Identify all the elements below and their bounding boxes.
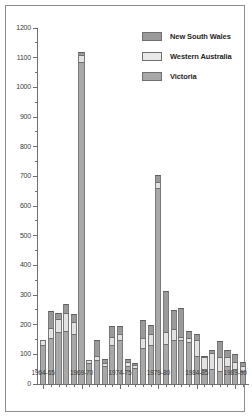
bar-segment-wa: [48, 328, 54, 338]
bar-segment-wa: [86, 360, 92, 363]
bar-segment-vic: [63, 331, 69, 384]
y-tick-label: 700: [20, 171, 31, 180]
bar-segment-wa: [102, 363, 108, 366]
bar: [171, 310, 177, 384]
bar-segment-nsw: [125, 359, 131, 362]
tick-mark: [33, 87, 37, 88]
bar-segment-wa: [217, 357, 223, 370]
bar: [40, 340, 46, 385]
bar-segment-wa: [155, 182, 161, 188]
bar-segment-nsw: [186, 331, 192, 338]
x-tick-major: [82, 385, 83, 389]
tick-mark: [35, 191, 37, 192]
bar-segment-vic: [132, 368, 138, 384]
tick-mark: [35, 250, 37, 251]
x-tick-major: [197, 385, 198, 389]
bar: [94, 340, 100, 385]
x-tick-minor: [59, 385, 60, 387]
y-tick-label: 800: [20, 142, 31, 151]
bar-segment-nsw: [117, 326, 123, 333]
bar-segment-vic: [40, 345, 46, 384]
bar-segment-nsw: [148, 325, 154, 334]
bar-segment-nsw: [240, 362, 246, 366]
bar: [63, 304, 69, 384]
bar: [102, 359, 108, 384]
x-tick-minor: [212, 385, 213, 387]
tick-mark: [33, 324, 37, 325]
bar-segment-wa: [209, 353, 215, 369]
bar-segment-wa: [186, 338, 192, 342]
bar-segment-nsw: [140, 320, 146, 338]
bar: [140, 320, 146, 384]
y-tick-label: 500: [20, 231, 31, 240]
x-tick-minor: [227, 385, 228, 387]
bar-segment-nsw: [78, 52, 84, 55]
y-tick-label: 900: [20, 112, 31, 121]
x-tick-label: 1974-75: [108, 369, 131, 377]
bar: [217, 341, 223, 384]
y-tick-label: 0: [27, 379, 31, 388]
x-tick-minor: [166, 385, 167, 387]
x-tick-minor: [66, 385, 67, 387]
x-tick-minor: [89, 385, 90, 387]
x-tick-major: [43, 385, 44, 389]
plot-area: 0100200300400500600700800900100011001200: [37, 28, 249, 385]
bar-segment-vic: [117, 340, 123, 385]
x-tick-label: 1969-70: [70, 369, 93, 377]
x-tick-minor: [243, 385, 244, 387]
x-tick-minor: [174, 385, 175, 387]
x-tick-major: [235, 385, 236, 389]
bar-segment-wa: [55, 319, 61, 332]
y-tick-label: 400: [20, 260, 31, 269]
bar-segment-wa: [194, 340, 200, 356]
x-tick-minor: [143, 385, 144, 387]
tick-mark: [35, 42, 37, 43]
bar-segment-vic: [109, 345, 115, 384]
bar-segment-vic: [217, 371, 223, 384]
tick-mark: [35, 161, 37, 162]
x-tick-minor: [181, 385, 182, 387]
bar-segment-nsw: [163, 291, 169, 333]
tick-mark: [35, 220, 37, 221]
bar-segment-nsw: [217, 341, 223, 357]
x-tick-major: [158, 385, 159, 389]
bar-segment-vic: [209, 369, 215, 384]
y-axis-line: [37, 28, 38, 385]
bar-segment-vic: [155, 188, 161, 384]
bar-segment-nsw: [132, 363, 138, 364]
tick-mark: [35, 280, 37, 281]
tick-mark: [33, 354, 37, 355]
bar: [224, 350, 230, 384]
bar-segment-vic: [163, 344, 169, 384]
bar-segment-wa: [163, 332, 169, 344]
bar-segment-wa: [171, 329, 177, 339]
bar-segment-vic: [55, 332, 61, 384]
bar-segment-vic: [94, 360, 100, 384]
bar-segment-wa: [71, 322, 77, 334]
x-tick-minor: [135, 385, 136, 387]
bar-segment-wa: [109, 337, 115, 346]
bar-segment-nsw: [171, 310, 177, 329]
x-tick-minor: [189, 385, 190, 387]
x-tick-label: 1989-90: [224, 369, 247, 377]
y-tick-label: 1100: [17, 53, 31, 62]
bar-segment-nsw: [55, 313, 61, 319]
bar-segment-wa: [132, 365, 138, 368]
bar-segment-vic: [140, 348, 146, 384]
bar-segment-nsw: [48, 311, 54, 327]
tick-mark: [33, 176, 37, 177]
x-tick-minor: [74, 385, 75, 387]
bar-segment-vic: [102, 366, 108, 384]
bar-segment-wa: [40, 340, 46, 346]
bar-segment-vic: [178, 340, 184, 385]
bar-segment-nsw: [232, 354, 238, 361]
tick-mark: [33, 265, 37, 266]
tick-mark: [33, 235, 37, 236]
y-tick-label: 300: [20, 290, 31, 299]
tick-mark: [33, 57, 37, 58]
tick-mark: [33, 28, 37, 29]
y-tick-label: 600: [20, 201, 31, 210]
bar-segment-nsw: [71, 314, 77, 321]
tick-mark: [33, 146, 37, 147]
bar-segment-nsw: [94, 340, 100, 356]
